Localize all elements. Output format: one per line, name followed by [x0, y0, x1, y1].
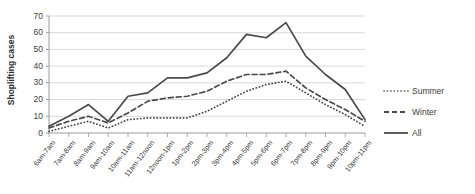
legend-item-all: All — [383, 122, 471, 143]
summer-line-swatch-icon — [383, 86, 409, 96]
legend-item-winter: Winter — [383, 101, 471, 122]
series-line-all — [49, 23, 365, 127]
chart-legend: Summer Winter All — [383, 80, 471, 143]
winter-line-swatch-icon — [383, 107, 409, 117]
legend-item-summer: Summer — [383, 80, 471, 101]
all-line-swatch-icon — [383, 128, 409, 138]
series-line-summer — [49, 81, 365, 131]
shoplifting-line-chart: Shoplifting cases 706050403020100 6am-7a… — [0, 0, 475, 194]
legend-label-all: All — [409, 128, 421, 138]
legend-label-winter: Winter — [409, 107, 437, 117]
legend-label-summer: Summer — [409, 86, 444, 96]
